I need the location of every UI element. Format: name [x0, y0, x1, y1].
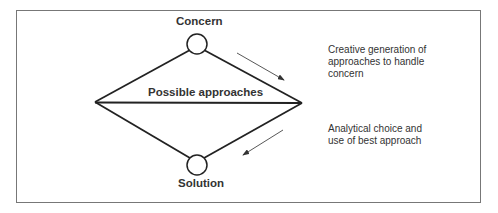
divergent-annotation: Creative generation of approaches to han…: [328, 44, 426, 80]
solution-node-circle: [187, 155, 207, 175]
divergent-arrow-icon: [237, 53, 284, 80]
possible-approaches-label: Possible approaches: [148, 86, 263, 98]
solution-label: Solution: [178, 177, 224, 189]
annotation-line: concern: [328, 68, 426, 80]
diamond-edges: [95, 50, 302, 158]
concern-node-circle: [187, 34, 207, 54]
annotation-line: approaches to handle: [328, 56, 426, 68]
convergent-annotation: Analytical choice and use of best approa…: [328, 123, 422, 147]
concern-label: Concern: [176, 15, 223, 27]
annotation-line: use of best approach: [328, 135, 422, 147]
annotation-line: Analytical choice and: [328, 123, 422, 135]
horizontal-axis-line: [95, 103, 302, 104]
diamond-diagram: [0, 0, 498, 213]
annotation-line: Creative generation of: [328, 44, 426, 56]
